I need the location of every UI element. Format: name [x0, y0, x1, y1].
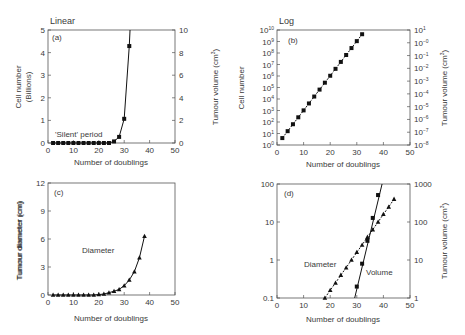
y-tick-label: 103: [262, 106, 274, 116]
panel-d-y2label: Tumour volume (cm3): [439, 203, 449, 280]
x-tick-label: 20: [94, 146, 103, 155]
x-tick-label: 50: [171, 298, 180, 307]
y-tick-label: 4: [41, 49, 46, 58]
x-tick-label: 20: [326, 148, 335, 157]
y-tick-label: 101: [414, 25, 426, 35]
x-tick-label: 10: [299, 148, 308, 157]
panel-d: (d) 01020304050 0.1110100 1101001000 Dia…: [15, 180, 449, 324]
y-tick-label: 0: [179, 139, 184, 148]
x-tick-label: 30: [120, 146, 129, 155]
panel-d-series: [323, 184, 397, 300]
x-tick-label: 30: [352, 301, 361, 310]
y-tick-label: 1: [270, 256, 275, 265]
panel-b-xlabel: Number of doublings: [306, 160, 380, 169]
x-tick-label: 30: [120, 298, 129, 307]
panel-d-ylabel: Tumour diameter (cm): [15, 201, 24, 280]
x-tick-label: 40: [145, 298, 154, 307]
x-tick-label: 10: [299, 301, 308, 310]
panel-a-y2-ticks: 0246810: [172, 26, 188, 148]
y-tick-label: 10−4: [414, 89, 429, 99]
x-tick-label: 40: [145, 146, 154, 155]
panel-a-frame: [48, 30, 175, 143]
y-tick-label: 0.1: [263, 294, 275, 303]
panel-d-frame: [277, 184, 410, 298]
y-tick-label: 0: [41, 139, 46, 148]
panel-a-heading: Linear: [50, 16, 75, 26]
y-tick-label: 3: [41, 263, 46, 272]
panel-a-ylabel-line2: (Billions): [24, 71, 33, 102]
y-tick-label: 10: [265, 218, 274, 227]
x-tick-label: 0: [275, 301, 280, 310]
y-tick-label: 10−8: [414, 140, 429, 150]
panel-b-frame: [277, 30, 410, 145]
y-tick-label: 0: [41, 291, 46, 300]
panel-d-x-ticks: 01020304050: [275, 295, 415, 310]
panel-b-y2label: Tumour volume (cm3): [439, 50, 449, 127]
panel-a-xlabel: Number of doublings: [74, 158, 148, 167]
y-tick-label: 102: [262, 117, 274, 127]
x-tick-label: 40: [379, 148, 388, 157]
y-tick-label: 10: [414, 256, 423, 265]
y-tick-label: 100: [414, 218, 428, 227]
y-tick-label: 100: [262, 140, 274, 150]
panel-b-x-ticks: 01020304050: [275, 142, 415, 157]
y-tick-label: 1: [41, 116, 46, 125]
panel-d-label: (d): [284, 189, 294, 198]
y-tick-label: 8: [179, 49, 184, 58]
x-tick-label: 10: [69, 298, 78, 307]
x-tick-label: 30: [352, 148, 361, 157]
y-tick-label: 108: [262, 48, 274, 58]
panel-c-frame: [48, 183, 175, 295]
y-tick-label: 101: [262, 129, 274, 139]
x-tick-label: 20: [94, 298, 103, 307]
panel-c-y-ticks: 036912: [36, 179, 51, 300]
panel-b-series: [280, 32, 364, 140]
panel-d-y2-ticks: 1101001000: [407, 180, 432, 303]
panel-a-label: (a): [52, 33, 62, 42]
y-tick-label: 3: [41, 71, 46, 80]
panel-a: Linear (a) 01020304050 012345 0246810 'S…: [14, 16, 220, 167]
panel-c-annotation: Diameter: [82, 246, 115, 255]
panel-a-ylabel-line1: Cell number: [14, 65, 23, 108]
panel-c-series: [51, 234, 147, 297]
panel-b-ylabel: Cell number: [237, 66, 246, 109]
panel-c-x-ticks: 01020304050: [46, 292, 180, 307]
y-tick-label: 4: [179, 94, 184, 103]
y-tick-label: 107: [262, 60, 274, 70]
y-tick-label: 109: [262, 37, 274, 47]
panel-d-xlabel: Number of doublings: [306, 315, 380, 324]
x-tick-label: 40: [379, 301, 388, 310]
y-tick-label: 10−2: [414, 63, 429, 73]
panel-b: Log (b) 01020304050 10010110210310410510…: [237, 16, 449, 169]
panel-a-y-ticks: 012345: [41, 26, 51, 148]
y-tick-label: 10−1: [414, 51, 429, 61]
y-tick-label: 6: [41, 235, 46, 244]
panel-a-series: [51, 30, 131, 145]
y-tick-label: 5: [41, 26, 46, 35]
y-tick-label: 10−7: [414, 127, 429, 137]
y-tick-label: 2: [41, 94, 46, 103]
x-tick-label: 10: [69, 146, 78, 155]
y-tick-label: 2: [179, 116, 184, 125]
y-tick-label: 100: [261, 180, 275, 189]
y-tick-label: 9: [41, 207, 46, 216]
x-tick-label: 0: [275, 148, 280, 157]
y-tick-label: 10: [179, 26, 188, 35]
x-tick-label: 0: [46, 146, 51, 155]
panel-b-label: (b): [288, 36, 298, 45]
y-tick-label: 1000: [414, 180, 432, 189]
y-tick-label: 104: [262, 94, 274, 104]
y-tick-label: 10−3: [414, 76, 429, 86]
y-tick-label: 10−5: [414, 102, 429, 112]
panel-c-xlabel: Number of doublings: [74, 314, 148, 323]
x-tick-label: 0: [46, 298, 51, 307]
panel-a-annotation: 'Silent' period: [55, 130, 103, 139]
y-tick-label: 1010: [260, 25, 275, 35]
panel-b-heading: Log: [279, 16, 294, 26]
y-tick-label: 106: [262, 71, 274, 81]
panel-c: (c) 01020304050 036912 Diameter Number o…: [15, 179, 180, 323]
figure: Linear (a) 01020304050 012345 0246810 'S…: [0, 0, 465, 335]
y-tick-label: 10−0: [414, 38, 429, 48]
y-tick-label: 10−6: [414, 114, 429, 124]
y-tick-label: 6: [179, 71, 184, 80]
